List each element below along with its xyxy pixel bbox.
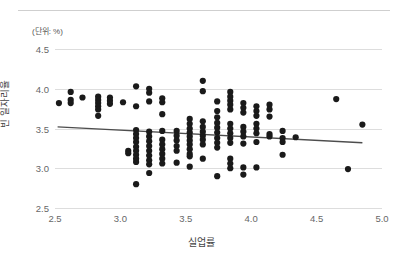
scatter-point [159,99,165,105]
scatter-point [279,128,285,134]
x-tick-label: 4.0 [245,213,258,224]
scatter-point [227,106,233,112]
scatter-point [200,141,206,147]
scatter-point [253,113,259,119]
scatter-point [125,150,131,156]
scatter-point [266,133,272,139]
scatter-point [133,181,139,187]
y-tick-label: 2.5 [36,203,49,214]
scatter-point [79,94,85,100]
scatter-point [120,99,126,105]
scatter-point [345,166,351,172]
scatter-point [146,170,152,176]
chart-figure: (단위: %) 빈 일자리율 2.53.03.54.04.5 2.53.03.5… [0,0,403,262]
scatter-point [133,159,139,165]
scatter-point [146,161,152,167]
scatter-point [240,141,246,147]
x-tick-label: 5.0 [375,213,388,224]
scatter-point [56,100,62,106]
scatter-point [146,98,152,104]
scatter-point [240,133,246,139]
scatter-point [253,139,259,145]
x-tick-label: 4.5 [310,213,323,224]
scatter-point [214,129,220,135]
scatter-point [214,144,220,150]
scatter-point [240,110,246,116]
scatter-point [68,89,74,95]
y-tick-label: 3.0 [36,163,49,174]
scatter-point [200,88,206,94]
scatter-point [266,113,272,119]
scatter-point [95,106,101,112]
scatter-point [279,152,285,158]
y-tick-label: 4.0 [36,83,49,94]
scatter-point [293,134,299,140]
y-tick-label: 3.5 [36,123,49,134]
scatter-point [133,103,139,109]
unit-note-label: (단위: %) [32,25,63,36]
scatter-point [174,160,180,166]
scatter-point [214,114,220,120]
scatter-point [279,139,285,145]
scatter-point [200,78,206,84]
scatter-point [146,90,152,96]
data-layer [55,49,382,208]
trend-line [58,127,363,143]
scatter-point [253,164,259,170]
scatter-point [133,83,139,89]
scatter-point [227,140,233,146]
scatter-point [333,96,339,102]
scatter-point [159,111,165,117]
scatter-point [214,98,220,104]
scatter-point [159,160,165,166]
scatter-point [266,106,272,112]
scatter-point [187,153,193,159]
scatter-point [240,164,246,170]
scatter-point [253,130,259,136]
scatter-point [187,164,193,170]
y-tick-label: 4.5 [36,44,49,55]
scatter-point [174,137,180,143]
scatter-point [68,100,74,106]
y-axis-label: 빈 일자리율 [0,80,11,128]
plot-area: 2.53.03.54.04.5 2.53.03.54.04.55.0 [55,49,382,208]
scatter-point [159,128,165,134]
x-tick-label: 3.0 [114,213,127,224]
scatter-points-group [56,78,366,188]
scatter-point [200,156,206,162]
scatter-point [200,118,206,124]
scatter-point [174,148,180,154]
scatter-point [214,108,220,114]
scatter-point [240,172,246,178]
scatter-point [107,101,113,107]
x-axis-label: 실업률 [0,234,403,249]
x-tick-label: 2.5 [48,213,61,224]
scatter-point [227,165,233,171]
gridline [55,208,382,209]
scatter-point [95,113,101,119]
x-tick-label: 3.5 [179,213,192,224]
top-divider [18,10,390,11]
scatter-point [214,173,220,179]
scatter-point [359,121,365,127]
